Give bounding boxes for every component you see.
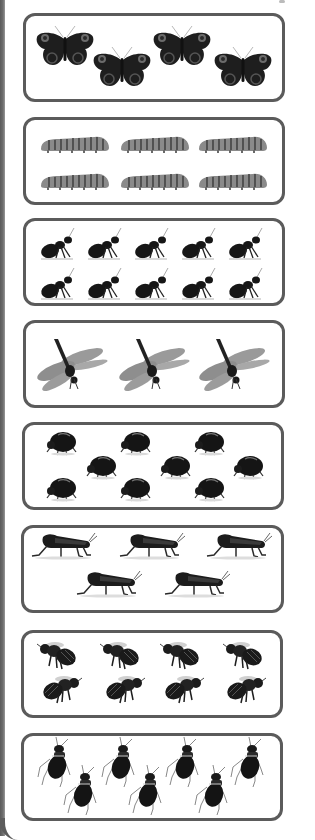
roach-icon [129,765,165,815]
bee-icon [37,640,79,670]
caterpillar-icon [39,133,111,153]
butterfly-icon [213,46,273,90]
beetle-icon [160,454,192,480]
ant-icon [133,267,171,301]
beetle-icon [46,430,78,456]
caterpillar-icon [119,170,191,190]
ant-icon [227,227,265,261]
dragonfly-icon [116,337,192,393]
page-edge-curl [0,818,22,840]
bee-icon [223,640,265,670]
butterfly-icon [35,25,95,69]
bee-icon [162,674,204,704]
bee-icon [160,640,202,670]
caterpillar-icon [39,170,111,190]
grasshopper-icon [206,531,274,561]
roach-icon [195,765,231,815]
roach-icon [231,737,267,787]
scan-mark [279,0,285,3]
caterpillar-icon [197,170,269,190]
beetle-icon [46,476,78,502]
beetle-icon [194,430,226,456]
page-edge-strip [0,0,5,836]
dragonfly-icon [34,337,110,393]
ant-icon [180,267,218,301]
grasshopper-icon [31,531,99,561]
ant-icon [39,267,77,301]
ant-icon [86,227,124,261]
beetle-icon [120,430,152,456]
bee-icon [40,674,82,704]
beetle-icon [86,454,118,480]
beetle-icon [194,476,226,502]
grasshopper-icon [119,531,187,561]
grasshopper-icon [164,569,232,599]
insect-box-caterpillars [23,117,285,205]
bee-icon [224,674,266,704]
dragonfly-icon [196,337,272,393]
ant-icon [86,267,124,301]
beetle-icon [233,454,265,480]
caterpillar-icon [119,133,191,153]
ant-icon [133,227,171,261]
roach-icon [64,765,100,815]
bee-icon [100,640,142,670]
butterfly-icon [152,25,212,69]
butterfly-icon [92,46,152,90]
ant-icon [39,227,77,261]
ant-icon [227,267,265,301]
beetle-icon [120,476,152,502]
ant-icon [180,227,218,261]
grasshopper-icon [76,569,144,599]
bee-icon [103,674,145,704]
caterpillar-icon [197,133,269,153]
